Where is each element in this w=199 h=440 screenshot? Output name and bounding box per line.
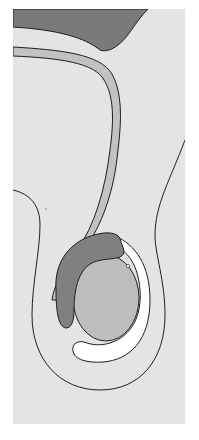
diagram-panel	[13, 9, 185, 424]
figure-caption	[14, 427, 184, 437]
speck	[45, 208, 47, 210]
appendix-testis	[126, 264, 130, 268]
anatomy-diagram	[13, 9, 185, 424]
top-dark-structure	[13, 9, 148, 51]
